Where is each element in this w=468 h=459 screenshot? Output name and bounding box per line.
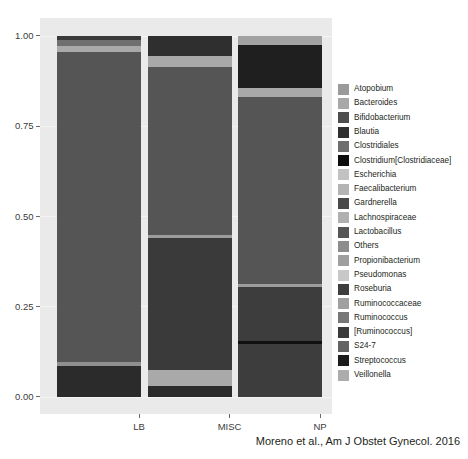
- legend-item[interactable]: Clostridium[Clostridiaceae]: [338, 153, 468, 167]
- legend-item[interactable]: Veillonella: [338, 368, 468, 382]
- x-axis-tick-lb: LB: [94, 414, 184, 432]
- bar-segment[interactable]: [57, 36, 141, 40]
- legend-item[interactable]: Bifidobacterium: [338, 111, 468, 125]
- legend-item-label: Veillonella: [354, 371, 391, 379]
- stacked-bar-lb[interactable]: [57, 36, 141, 397]
- legend-swatch-icon: [338, 127, 349, 138]
- legend-item[interactable]: [Ruminococcus]: [338, 325, 468, 339]
- legend-swatch-icon: [338, 155, 349, 166]
- y-axis-tick-label: 1.00: [15, 30, 34, 41]
- legend-item[interactable]: Propionibacterium: [338, 254, 468, 268]
- x-axis-tick-mark: [320, 414, 321, 418]
- legend-item[interactable]: Pseudomonas: [338, 268, 468, 282]
- legend-swatch-icon: [338, 355, 349, 366]
- legend-item[interactable]: Atopobium: [338, 82, 468, 96]
- y-axis-tick-label: 0.50: [15, 211, 34, 222]
- x-axis-tick-label: MISC: [185, 421, 275, 432]
- legend-item[interactable]: Escherichia: [338, 168, 468, 182]
- legend-swatch-icon: [338, 84, 349, 95]
- bar-segment[interactable]: [148, 235, 232, 238]
- x-axis-tick-label: NP: [275, 421, 365, 432]
- bar-segment[interactable]: [148, 67, 232, 236]
- legend: AtopobiumBacteroidesBifidobacteriumBlaut…: [338, 82, 468, 382]
- legend-item-label: S24-7: [354, 342, 376, 350]
- legend-item[interactable]: Roseburia: [338, 282, 468, 296]
- bar-segment[interactable]: [238, 88, 322, 97]
- legend-item-label: [Ruminococcus]: [354, 328, 412, 336]
- bar-segment[interactable]: [238, 284, 322, 287]
- bar-segment[interactable]: [238, 45, 322, 88]
- bar-segment[interactable]: [238, 97, 322, 284]
- legend-swatch-icon: [338, 212, 349, 223]
- x-axis-tick-np: NP: [275, 414, 365, 432]
- legend-swatch-icon: [338, 341, 349, 352]
- legend-item[interactable]: Ruminococcus: [338, 311, 468, 325]
- legend-item-label: Bifidobacterium: [354, 114, 410, 122]
- bar-segment[interactable]: [57, 40, 141, 46]
- legend-swatch-icon: [338, 98, 349, 109]
- legend-item-label: Ruminococcaceae: [354, 300, 421, 308]
- bar-segment[interactable]: [57, 366, 141, 397]
- y-axis-tick-label: 0.25: [15, 301, 34, 312]
- plot-panel: [40, 18, 332, 414]
- legend-item[interactable]: Others: [338, 239, 468, 253]
- legend-item-label: Pseudomonas: [354, 271, 406, 279]
- y-axis-tick-label: 0.00: [15, 391, 34, 402]
- legend-swatch-icon: [338, 284, 349, 295]
- y-axis-tick: 0.25: [0, 301, 40, 313]
- legend-item-label: Clostridiales: [354, 142, 399, 150]
- legend-item[interactable]: Lachnospiraceae: [338, 211, 468, 225]
- bar-segment[interactable]: [148, 386, 232, 397]
- stacked-bar-misc[interactable]: [148, 36, 232, 397]
- y-axis-tick-mark: [36, 396, 40, 397]
- citation-text: Moreno et al., Am J Obstet Gynecol. 2016: [256, 435, 460, 447]
- legend-item-label: Roseburia: [354, 285, 391, 293]
- x-axis-tick-mark: [229, 414, 230, 418]
- bar-segment[interactable]: [57, 46, 141, 52]
- stacked-bar-np[interactable]: [238, 36, 322, 397]
- legend-item[interactable]: Gardnerella: [338, 196, 468, 210]
- y-axis-tick-mark: [36, 35, 40, 36]
- legend-item-label: Atopobium: [354, 85, 393, 93]
- y-axis-tick-mark: [36, 216, 40, 217]
- bar-segment[interactable]: [148, 56, 232, 67]
- gridline: [40, 397, 332, 398]
- legend-item[interactable]: S24-7: [338, 339, 468, 353]
- bar-segment[interactable]: [57, 52, 141, 362]
- legend-item-label: Gardnerella: [354, 199, 397, 207]
- legend-swatch-icon: [338, 184, 349, 195]
- legend-item[interactable]: Bacteroides: [338, 96, 468, 110]
- legend-item[interactable]: Blautia: [338, 125, 468, 139]
- bar-segment[interactable]: [238, 287, 322, 341]
- legend-item[interactable]: Clostridiales: [338, 139, 468, 153]
- legend-item[interactable]: Faecalibacterium: [338, 182, 468, 196]
- legend-item[interactable]: Lactobacillus: [338, 225, 468, 239]
- y-axis-tick-mark: [36, 126, 40, 127]
- legend-swatch-icon: [338, 370, 349, 381]
- bar-segment[interactable]: [148, 36, 232, 56]
- y-axis: 0.000.250.500.751.00: [0, 18, 40, 414]
- legend-item-label: Ruminococcus: [354, 314, 408, 322]
- bar-segment[interactable]: [238, 36, 322, 45]
- legend-swatch-icon: [338, 270, 349, 281]
- legend-swatch-icon: [338, 241, 349, 252]
- x-axis-tick-label: LB: [94, 421, 184, 432]
- bar-segment[interactable]: [148, 370, 232, 386]
- legend-swatch-icon: [338, 327, 349, 338]
- legend-swatch-icon: [338, 112, 349, 123]
- legend-item-label: Faecalibacterium: [354, 185, 416, 193]
- bar-segment[interactable]: [238, 341, 322, 344]
- x-axis-tick-mark: [139, 414, 140, 418]
- bar-segment[interactable]: [57, 362, 141, 366]
- legend-item-label: Blautia: [354, 128, 379, 136]
- legend-item[interactable]: Streptococcus: [338, 354, 468, 368]
- bar-segment[interactable]: [238, 344, 322, 397]
- y-axis-tick-mark: [36, 306, 40, 307]
- bar-segment[interactable]: [148, 238, 232, 370]
- y-axis-tick: 1.00: [0, 30, 40, 42]
- x-axis-tick-misc: MISC: [185, 414, 275, 432]
- y-axis-tick: 0.75: [0, 120, 40, 132]
- legend-item-label: Propionibacterium: [354, 257, 420, 265]
- y-axis-tick-label: 0.75: [15, 120, 34, 131]
- legend-item[interactable]: Ruminococcaceae: [338, 296, 468, 310]
